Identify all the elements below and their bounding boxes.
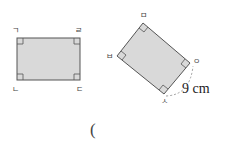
vertex-label-ieung: ㅇ: [193, 57, 200, 66]
vertex-label-rieul: ㄹ: [75, 26, 82, 35]
vertex-label-bieup: ㅂ: [106, 52, 113, 61]
vertex-label-siot: ㅅ: [161, 97, 168, 106]
left-rectangle: ㄱ ㄹ ㄴ ㄷ: [12, 26, 83, 94]
vertex-label-mieum: ㅁ: [140, 11, 147, 20]
right-rectangle: ㅁ ㅂ ㅅ ㅇ 9 cm: [106, 11, 210, 106]
side-length-label: 9 cm: [182, 81, 210, 96]
figure-canvas: ㄱ ㄹ ㄴ ㄷ ㅁ ㅂ ㅅ ㅇ 9 cm: [0, 0, 245, 145]
vertex-label-nieun: ㄴ: [12, 85, 19, 94]
vertex-label-giyeok: ㄱ: [12, 26, 19, 35]
answer-blank: (: [90, 120, 96, 140]
vertex-label-digeut: ㄷ: [76, 85, 83, 94]
